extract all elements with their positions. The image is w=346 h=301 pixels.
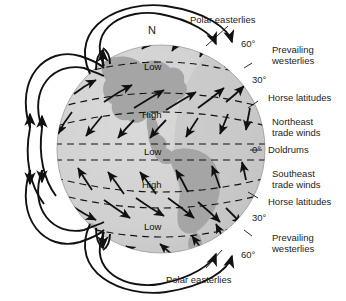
label-southeast-trade-winds: Southeast trade winds xyxy=(272,168,321,190)
latitude-label-60n: 60° xyxy=(241,38,255,49)
pressure-label-high-30s: High xyxy=(142,179,162,190)
label-northeast-trade-winds: Northeast trade winds xyxy=(272,116,321,138)
callout-polar-easterlies-south: Polar easterlies xyxy=(166,274,231,285)
label-prevailing-westerlies-south: Prevailing westerlies xyxy=(272,232,314,254)
label-line-2: westerlies xyxy=(272,243,314,254)
pressure-label-low-60s: Low xyxy=(144,221,161,232)
label-line-1: Northeast xyxy=(272,116,313,127)
label-line-2: trade winds xyxy=(272,127,321,138)
label-doldrums: Doldrums xyxy=(268,144,309,155)
label-line-1: Prevailing xyxy=(272,232,314,243)
pressure-label-low-60n: Low xyxy=(144,61,161,72)
label-prevailing-westerlies-north: Prevailing westerlies xyxy=(272,44,314,66)
latitude-label-30s: 30° xyxy=(252,212,266,223)
label-line-2: trade winds xyxy=(272,179,321,190)
circulation-diagram: N Low High Low High Low 60° 30° 0° 30° 6… xyxy=(0,0,346,301)
pressure-label-high-30n: High xyxy=(142,109,162,120)
north-pole-marker: N xyxy=(148,25,156,36)
label-horse-latitudes-north: Horse latitudes xyxy=(268,92,331,103)
pressure-label-low-equator: Low xyxy=(144,146,161,157)
label-horse-latitudes-south: Horse latitudes xyxy=(268,196,331,207)
latitude-label-30n: 30° xyxy=(252,74,266,85)
latitude-label-equator: 0° xyxy=(252,144,261,155)
callout-polar-easterlies-north: Polar easterlies xyxy=(190,14,255,25)
label-line-2: westerlies xyxy=(272,55,314,66)
latitude-label-60s: 60° xyxy=(241,249,255,260)
label-line-1: Southeast xyxy=(272,168,315,179)
label-line-1: Prevailing xyxy=(272,44,314,55)
